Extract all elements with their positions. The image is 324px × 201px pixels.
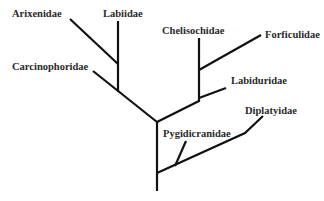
branch-carcinophoridae bbox=[93, 71, 157, 122]
branch-arixenidae bbox=[70, 19, 118, 64]
taxon-label-labiduridae: Labiduridae bbox=[231, 76, 287, 87]
taxon-label-carcinophoridae: Carcinophoridae bbox=[12, 62, 88, 73]
taxon-label-forficulidae: Forficulidae bbox=[265, 30, 320, 41]
taxon-label-chelisochidae: Chelisochidae bbox=[162, 26, 224, 37]
taxon-label-diplatyidae: Diplatyidae bbox=[245, 106, 297, 117]
branch-right-clade bbox=[157, 101, 199, 122]
taxon-label-pygidicranidae: Pygidicranidae bbox=[163, 129, 231, 140]
branch-diplatyidae bbox=[157, 116, 263, 173]
branch-forficulidae bbox=[199, 35, 261, 70]
branch-labiduridae bbox=[199, 88, 226, 98]
taxon-label-labiidae: Labiidae bbox=[103, 9, 143, 20]
taxon-label-arixenidae: Arixenidae bbox=[12, 9, 62, 20]
